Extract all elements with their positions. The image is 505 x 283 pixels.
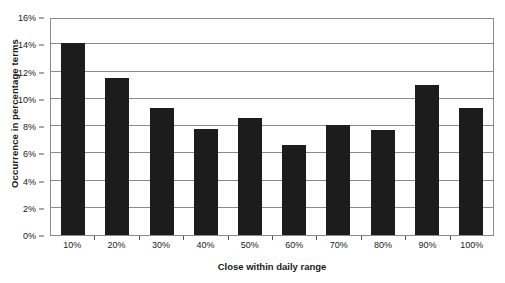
y-axis-tick-label: 16% bbox=[18, 13, 36, 23]
bars-layer bbox=[51, 19, 493, 235]
x-axis-tick-label: 80% bbox=[361, 240, 405, 250]
bar-slot bbox=[360, 19, 404, 235]
bar-slot bbox=[228, 19, 272, 235]
x-axis-tick-label: 50% bbox=[228, 240, 272, 250]
y-axis-tick-label: 2% bbox=[23, 204, 36, 214]
y-axis-tick-label: 14% bbox=[18, 40, 36, 50]
y-axis-tick-label: 8% bbox=[23, 122, 36, 132]
bar-slot bbox=[316, 19, 360, 235]
y-axis-tick bbox=[39, 154, 44, 155]
y-axis-tick bbox=[39, 181, 44, 182]
x-axis-tick-label: 30% bbox=[139, 240, 183, 250]
bar[interactable] bbox=[105, 78, 129, 235]
bar[interactable] bbox=[150, 108, 174, 235]
x-axis-tick-label: 20% bbox=[94, 240, 138, 250]
x-axis-title: Close within daily range bbox=[50, 261, 494, 272]
y-axis-tick bbox=[39, 236, 44, 237]
bar-slot bbox=[449, 19, 493, 235]
x-axis-tick-label: 60% bbox=[272, 240, 316, 250]
x-axis-tick-label: 100% bbox=[450, 240, 494, 250]
bar-slot bbox=[272, 19, 316, 235]
bar-slot bbox=[51, 19, 95, 235]
bar[interactable] bbox=[371, 130, 395, 235]
y-axis-tick bbox=[39, 208, 44, 209]
y-axis-tick-label: 6% bbox=[23, 149, 36, 159]
y-axis-tick bbox=[39, 18, 44, 19]
bar[interactable] bbox=[194, 129, 218, 235]
bar[interactable] bbox=[326, 125, 350, 235]
bar-slot bbox=[184, 19, 228, 235]
bar[interactable] bbox=[459, 108, 483, 235]
y-axis-tick bbox=[39, 45, 44, 46]
y-axis-tick bbox=[39, 99, 44, 100]
bar-chart: Occurrence in percentage terms 0%2%4%6%8… bbox=[0, 0, 505, 283]
y-axis-tick-label: 10% bbox=[18, 95, 36, 105]
y-axis-tick-label: 12% bbox=[18, 68, 36, 78]
x-axis-tick-labels: 10%20%30%40%50%60%70%80%90%100% bbox=[50, 240, 494, 250]
x-axis-tick-label: 70% bbox=[316, 240, 360, 250]
bar[interactable] bbox=[282, 145, 306, 235]
x-axis-tick-label: 40% bbox=[183, 240, 227, 250]
bar[interactable] bbox=[61, 43, 85, 235]
bar[interactable] bbox=[415, 85, 439, 235]
y-axis-tick-labels: 0%2%4%6%8%10%12%14%16% bbox=[0, 18, 44, 236]
y-axis-tick bbox=[39, 72, 44, 73]
bar[interactable] bbox=[238, 118, 262, 235]
y-axis-tick-label: 4% bbox=[23, 177, 36, 187]
y-axis-tick bbox=[39, 127, 44, 128]
x-axis-tick-label: 10% bbox=[50, 240, 94, 250]
x-axis-tick-label: 90% bbox=[405, 240, 449, 250]
plot-area bbox=[50, 18, 494, 236]
y-axis-tick-label: 0% bbox=[23, 231, 36, 241]
bar-slot bbox=[95, 19, 139, 235]
bar-slot bbox=[139, 19, 183, 235]
bar-slot bbox=[405, 19, 449, 235]
